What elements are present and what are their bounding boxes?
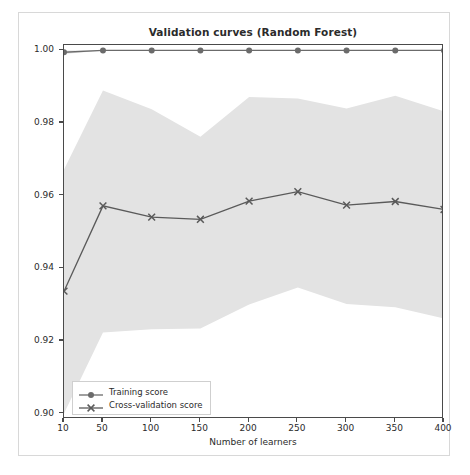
x-tick-mark — [296, 418, 297, 422]
circle-marker — [197, 47, 203, 53]
plot-area — [63, 44, 443, 418]
x-tick-mark — [394, 418, 395, 422]
y-tick-label: 0.94 — [20, 262, 54, 272]
x-tick-mark — [150, 418, 151, 422]
series-line — [64, 50, 443, 52]
x-tick-mark — [62, 418, 63, 422]
x-tick-label: 150 — [179, 423, 219, 433]
circle-marker — [64, 49, 67, 55]
circle-marker — [149, 47, 155, 53]
x-tick-label: 400 — [423, 423, 463, 433]
x-tick-label: 300 — [326, 423, 366, 433]
plot-svg — [64, 45, 443, 418]
x-tick-mark — [345, 418, 346, 422]
circle-marker — [392, 47, 398, 53]
circle-marker — [344, 47, 350, 53]
x-marker — [78, 399, 104, 411]
x-tick-label: 50 — [82, 423, 122, 433]
circle-marker — [295, 47, 301, 53]
x-tick-label: 10 — [43, 423, 83, 433]
x-axis-label: Number of learners — [63, 437, 443, 447]
x-tick-mark — [199, 418, 200, 422]
x-tick-label: 350 — [374, 423, 414, 433]
legend-label: Cross-validation score — [109, 400, 203, 410]
y-tick-label: 0.96 — [20, 190, 54, 200]
chart-legend[interactable]: Training scoreCross-validation score — [72, 381, 211, 415]
x-tick-label: 200 — [228, 423, 268, 433]
legend-item-cross-validation-score[interactable]: Cross-validation score — [78, 398, 203, 411]
chart-title: Validation curves (Random Forest) — [63, 26, 443, 38]
y-tick-label: 0.98 — [20, 117, 54, 127]
y-tick-label: 1.00 — [20, 44, 54, 54]
circle-marker — [78, 386, 104, 398]
x-tick-label: 100 — [131, 423, 171, 433]
legend-item-training-score[interactable]: Training score — [78, 385, 203, 398]
x-tick-mark — [101, 418, 102, 422]
x-tick-mark — [248, 418, 249, 422]
legend-label: Training score — [109, 387, 168, 397]
circle-marker — [441, 47, 443, 53]
circle-marker — [246, 47, 252, 53]
x-tick-label: 250 — [277, 423, 317, 433]
x-tick-mark — [442, 418, 443, 422]
figure-canvas: Validation curves (Random Forest) Accura… — [0, 0, 470, 475]
y-tick-label: 0.90 — [20, 408, 54, 418]
circle-marker — [100, 47, 106, 53]
y-tick-label: 0.92 — [20, 335, 54, 345]
confidence-band — [64, 90, 443, 413]
